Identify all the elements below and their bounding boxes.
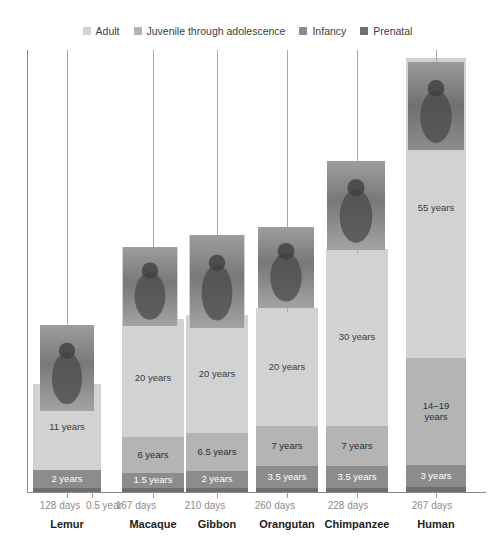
leader-line-human [436, 50, 437, 62]
species-label-chimpanzee: Chimpanzee [325, 518, 390, 530]
y-axis-line [27, 50, 28, 492]
bar-segment-label: 20 years [135, 373, 171, 384]
x-tick-mark [357, 492, 358, 498]
bar-segment-label: 3 years [420, 471, 451, 482]
prenatal-duration-label: 128 days [40, 500, 81, 511]
bar-segment-label: 20 years [199, 369, 235, 380]
bar-segment-label: 7 years [341, 441, 372, 452]
bar-segment-label: 6 years [137, 450, 168, 461]
gibbon-photo [189, 235, 244, 328]
bar-segment-label: 55 years [418, 203, 454, 214]
bar-segment-macaque-infancy[interactable]: 1.5 years [122, 473, 184, 488]
bar-segment-label: 3.5 years [337, 472, 376, 483]
legend-item-infancy: Infancy [299, 26, 346, 37]
bar-segment-orangutan-adult[interactable]: 20 years [256, 308, 318, 426]
species-label-macaque: Macaque [129, 518, 176, 530]
bar-segment-chimpanzee-adult[interactable]: 30 years [326, 249, 388, 426]
human-photo [408, 62, 464, 150]
prenatal-duration-label: 167 days [116, 500, 157, 511]
bar-segment-human-infancy[interactable]: 3 years [406, 465, 466, 487]
prenatal-duration-label: 267 days [412, 500, 453, 511]
prenatal-duration-label: 260 days [255, 500, 296, 511]
stacked-bar-orangutan[interactable]: 20 years7 years3.5 years260 days [256, 308, 318, 492]
macaque-photo [122, 247, 177, 326]
bar-segment-gibbon-infancy[interactable]: 2 years [186, 471, 248, 488]
bar-group-orangutan[interactable]: 20 years7 years3.5 years260 days [256, 308, 318, 492]
bar-segment-label: 11 years [49, 422, 85, 433]
x-tick-mark [92, 492, 93, 498]
bar-segment-human-juvenile[interactable]: 14–19 years [406, 358, 466, 465]
x-tick-mark [287, 492, 288, 498]
chart-legend: AdultJuvenile through adolescenceInfancy… [0, 26, 495, 37]
bar-segment-macaque-adult[interactable]: 20 years [122, 319, 184, 437]
species-label-human: Human [417, 518, 454, 530]
bar-segment-label: 14–19 years [423, 401, 449, 423]
bar-segment-chimpanzee-infancy[interactable]: 3.5 years [326, 466, 388, 488]
legend-swatch-prenatal-icon [360, 27, 368, 35]
lemur-photo [40, 325, 94, 411]
bar-segment-chimpanzee-juvenile[interactable]: 7 years [326, 426, 388, 466]
x-tick-mark [217, 492, 218, 498]
legend-swatch-juvenile-icon [134, 27, 142, 35]
bar-segment-gibbon-juvenile[interactable]: 6.5 years [186, 433, 248, 471]
bar-segment-macaque-juvenile[interactable]: 6 years [122, 437, 184, 473]
x-tick-mark [67, 492, 68, 498]
species-label-lemur: Lemur [50, 518, 84, 530]
bar-segment-label: 7 years [271, 441, 302, 452]
bar-segment-label: 20 years [269, 362, 305, 373]
prenatal-duration-label: 228 days [328, 500, 369, 511]
legend-swatch-adult-icon [83, 27, 91, 35]
legend-item-prenatal: Prenatal [360, 26, 412, 37]
x-axis-line [27, 492, 486, 493]
bar-segment-label: 2 years [201, 474, 232, 485]
orangutan-photo [258, 227, 314, 308]
bar-group-gibbon[interactable]: 20 years6.5 years2 years210 days [186, 315, 248, 492]
bar-segment-gibbon-adult[interactable]: 20 years [186, 315, 248, 433]
bar-segment-label: 30 years [339, 332, 375, 343]
legend-label: Prenatal [373, 26, 412, 37]
bar-segment-label: 3.5 years [267, 472, 306, 483]
species-label-orangutan: Orangutan [259, 518, 315, 530]
legend-label: Adult [96, 26, 120, 37]
legend-item-adult: Adult [83, 26, 120, 37]
bar-segment-label: 1.5 years [133, 475, 172, 486]
bar-segment-lemur-infancy[interactable]: 2 years [33, 470, 101, 488]
bar-segment-label: 6.5 years [197, 447, 236, 458]
legend-label: Infancy [312, 26, 346, 37]
stacked-bar-macaque[interactable]: 20 years6 years1.5 years167 days [122, 319, 184, 492]
species-label-gibbon: Gibbon [198, 518, 237, 530]
stacked-bar-gibbon[interactable]: 20 years6.5 years2 years210 days [186, 315, 248, 492]
legend-item-juvenile: Juvenile through adolescence [134, 26, 286, 37]
x-tick-mark [153, 492, 154, 498]
legend-swatch-infancy-icon [299, 27, 307, 35]
bar-segment-orangutan-juvenile[interactable]: 7 years [256, 426, 318, 466]
bar-segment-label: 2 years [51, 474, 82, 485]
bar-group-chimpanzee[interactable]: 30 years7 years3.5 years228 days [326, 249, 388, 492]
legend-label: Juvenile through adolescence [147, 26, 286, 37]
bar-group-macaque[interactable]: 20 years6 years1.5 years167 days [122, 319, 184, 492]
bar-segment-orangutan-infancy[interactable]: 3.5 years [256, 466, 318, 488]
chimpanzee-photo [327, 161, 385, 250]
life-stage-stacked-bar-chart: AdultJuvenile through adolescenceInfancy… [0, 0, 495, 546]
prenatal-duration-label: 210 days [185, 500, 226, 511]
stacked-bar-chimpanzee[interactable]: 30 years7 years3.5 years228 days [326, 249, 388, 492]
x-tick-mark [436, 492, 437, 498]
